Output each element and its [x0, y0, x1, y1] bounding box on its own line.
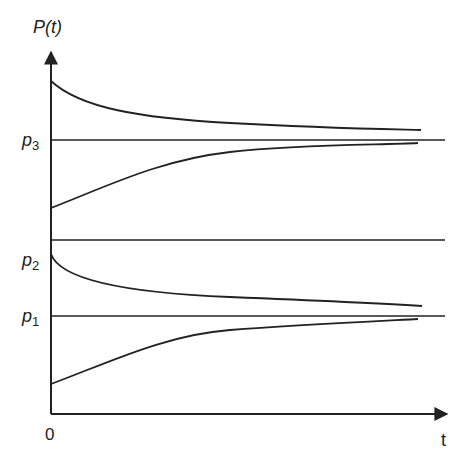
- curve-below-p1: [51, 319, 418, 384]
- tick-label-p2: p2: [21, 250, 39, 273]
- curve-below-p3: [51, 143, 418, 208]
- origin-label: 0: [45, 425, 54, 444]
- tick-label-p1: p1: [21, 306, 39, 329]
- tick-label-p3: p3: [21, 130, 39, 153]
- curve-below-p2: [51, 254, 422, 306]
- x-axis-label: t: [441, 430, 446, 450]
- curve-above-p3: [51, 81, 421, 130]
- y-axis-label: P(t): [33, 17, 62, 37]
- phase-line-chart: P(t) p3 p2 p1 0 t: [0, 0, 463, 466]
